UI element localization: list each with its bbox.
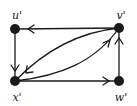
edge-v-to-x-curved	[15, 28, 119, 81]
edge-x-to-v-curved	[15, 28, 119, 81]
node-label-v: v'	[116, 10, 125, 21]
node-x	[10, 76, 20, 86]
node-label-w: w'	[115, 92, 127, 103]
node-label-x: x'	[12, 92, 21, 103]
node-label-u: u'	[12, 10, 22, 21]
node-w	[114, 76, 124, 86]
node-u	[10, 24, 20, 34]
edge-v-to-u	[15, 28, 119, 29]
node-v	[114, 23, 124, 33]
